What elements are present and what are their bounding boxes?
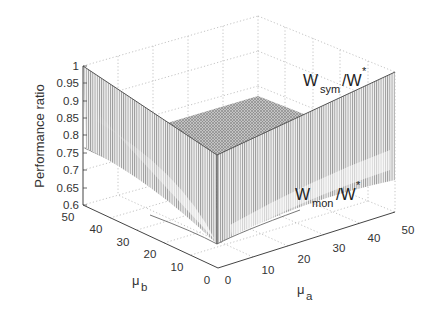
svg-text:20: 20 <box>144 248 157 260</box>
svg-text:0.75: 0.75 <box>57 147 79 159</box>
svg-text:0.7: 0.7 <box>63 164 79 176</box>
svg-text:W: W <box>295 186 311 203</box>
svg-text:50: 50 <box>62 211 75 223</box>
svg-text:10: 10 <box>171 261 184 273</box>
z-axis-tick-labels: 1 0.95 0.9 0.85 0.8 0.75 0.7 0.65 0.6 <box>57 60 79 211</box>
svg-text:mon: mon <box>312 197 333 209</box>
svg-text:sym: sym <box>320 83 340 95</box>
svg-text:0.85: 0.85 <box>57 112 79 124</box>
svg-text:/W: /W <box>336 186 356 203</box>
svg-text:W: W <box>303 72 319 89</box>
series-wsym-surface <box>83 66 395 244</box>
svg-text:1: 1 <box>73 60 79 72</box>
svg-text:μ: μ <box>132 273 140 288</box>
svg-text:20: 20 <box>298 253 311 265</box>
svg-text:0.8: 0.8 <box>63 129 79 141</box>
svg-text:50: 50 <box>402 224 415 236</box>
svg-text:0: 0 <box>204 274 210 286</box>
svg-text:a: a <box>306 290 313 302</box>
svg-text:μ: μ <box>297 282 305 297</box>
svg-text:*: * <box>356 179 361 191</box>
svg-text:30: 30 <box>117 236 130 248</box>
svg-text:0: 0 <box>225 274 231 286</box>
y-axis-title: μ b <box>132 273 147 293</box>
svg-text:40: 40 <box>368 232 381 244</box>
svg-text:/W: /W <box>342 72 362 89</box>
svg-text:0.6: 0.6 <box>63 199 79 211</box>
svg-text:30: 30 <box>333 242 346 254</box>
x-axis-tick-labels: 0 10 20 30 40 50 <box>225 224 415 286</box>
z-axis-title: Performance ratio <box>32 84 47 187</box>
svg-text:0.65: 0.65 <box>57 182 79 194</box>
x-axis-title: μ a <box>297 282 313 302</box>
svg-text:b: b <box>141 281 147 293</box>
svg-text:0.95: 0.95 <box>57 77 79 89</box>
svg-text:10: 10 <box>262 264 275 276</box>
svg-text:40: 40 <box>90 223 103 235</box>
surface-chart: 1 0.95 0.9 0.85 0.8 0.75 0.7 0.65 0.6 Pe… <box>0 0 438 313</box>
svg-text:*: * <box>362 65 367 77</box>
svg-text:0.9: 0.9 <box>63 95 79 107</box>
